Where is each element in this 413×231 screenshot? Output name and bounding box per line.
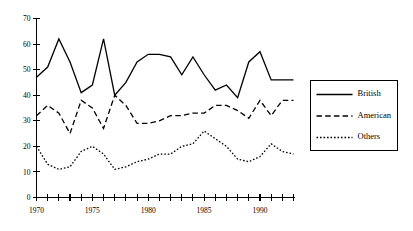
- y-tick-label: 0: [27, 193, 31, 202]
- y-tick-label: 60: [23, 40, 31, 49]
- y-tick-group: 010203040506070: [23, 14, 40, 202]
- x-tick-label: 1970: [29, 206, 44, 215]
- series-line-american: [37, 95, 294, 133]
- y-tick-label: 10: [23, 168, 31, 177]
- y-axis: 010203040506070: [23, 14, 40, 202]
- x-tick-label: 1980: [141, 206, 156, 215]
- x-tick-label: 1975: [85, 206, 100, 215]
- series-group: [37, 39, 294, 169]
- y-tick-label: 50: [23, 65, 31, 74]
- chart-legend: BritishAmericanOthers: [311, 81, 398, 151]
- x-axis: 19701975198019851990: [29, 194, 295, 215]
- line-chart: 010203040506070 19701975198019851990 Bri…: [0, 0, 413, 231]
- series-line-others: [37, 131, 294, 169]
- chart-canvas: 010203040506070 19701975198019851990 Bri…: [0, 0, 413, 231]
- y-tick-label: 40: [23, 91, 31, 100]
- legend-label-american: American: [358, 110, 392, 120]
- y-tick-label: 30: [23, 116, 31, 125]
- y-tick-label: 70: [23, 14, 31, 23]
- series-line-british: [37, 39, 294, 98]
- legend-label-others: Others: [358, 131, 381, 141]
- x-tick-label: 1985: [197, 206, 212, 215]
- legend-label-british: British: [358, 88, 382, 98]
- y-tick-label: 20: [23, 142, 31, 151]
- x-tick-label: 1990: [252, 206, 267, 215]
